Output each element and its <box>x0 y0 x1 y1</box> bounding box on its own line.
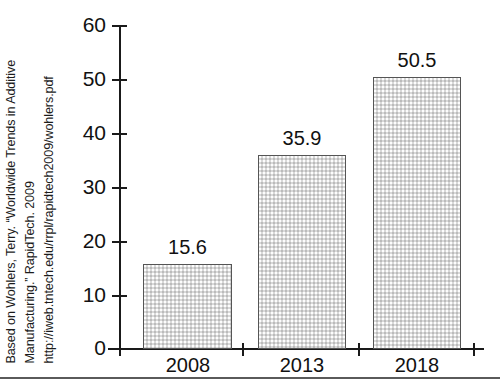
bar-value-2013: 35.9 <box>258 128 346 148</box>
bar-2018 <box>373 77 461 349</box>
x-tick-3 <box>473 343 475 356</box>
bar-value-2018: 50.5 <box>373 50 461 70</box>
x-tick-0 <box>119 343 121 356</box>
y-tick-50 <box>112 79 127 81</box>
y-tick-label-60: 60 <box>64 14 106 35</box>
y-tick-label-40: 40 <box>64 122 106 143</box>
bar-2008 <box>143 264 232 349</box>
y-tick-30 <box>112 187 127 189</box>
y-tick-label-50: 50 <box>64 68 106 89</box>
y-tick-label-20: 20 <box>64 230 106 251</box>
y-tick-10 <box>112 295 127 297</box>
y-tick-40 <box>112 133 127 135</box>
bar-2013 <box>258 155 346 349</box>
x-category-label-2013: 2013 <box>252 355 352 375</box>
bottom-divider <box>0 377 500 379</box>
plot-area: 60 50 40 30 20 10 0 15 <box>0 0 500 391</box>
y-tick-60 <box>112 25 127 27</box>
x-tick-2 <box>358 343 360 356</box>
x-category-label-2008: 2008 <box>138 355 238 375</box>
x-tick-1 <box>242 343 244 356</box>
y-tick-label-30: 30 <box>64 176 106 197</box>
y-tick-label-0: 0 <box>64 337 106 358</box>
chart-figure: Based on Wohlers, Terry. “Worldwide Tren… <box>0 0 500 391</box>
bar-value-2008: 15.6 <box>143 237 232 257</box>
x-category-label-2018: 2018 <box>367 355 467 375</box>
y-tick-label-10: 10 <box>64 284 106 305</box>
y-tick-20 <box>112 241 127 243</box>
